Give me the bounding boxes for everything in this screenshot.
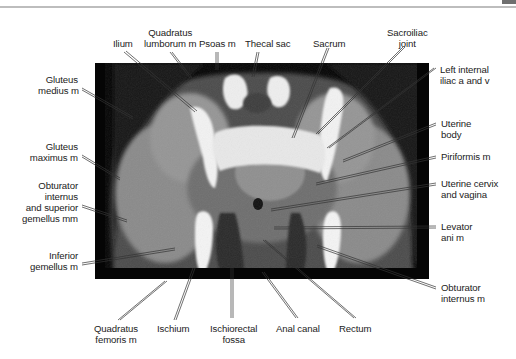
label-quadratus-lumborum: Quadratus lumborum m — [144, 27, 196, 49]
label-psoas: Psoas m — [199, 38, 236, 49]
label-gluteus-maximus: Gluteus maximus m — [28, 141, 78, 163]
label-uterine-cervix-vagina: Uterine cervix and vagina — [441, 178, 498, 200]
label-obturator-internus: Obturator internus m — [441, 282, 485, 304]
label-sacroiliac-joint: Sacroiliac joint — [387, 27, 428, 49]
label-anal-canal: Anal canal — [276, 323, 320, 334]
label-uterine-body: Uterine body — [441, 118, 471, 140]
label-ilium: Ilium — [113, 38, 133, 49]
label-piriformis: Piriformis m — [441, 151, 490, 162]
ct-figure: Ilium Quadratus lumborum m Psoas m Theca… — [0, 0, 516, 359]
label-quadratus-femoris: Quadratus femoris m — [94, 323, 138, 345]
label-thecal-sac: Thecal sac — [245, 38, 290, 49]
label-ischium: Ischium — [157, 323, 189, 334]
label-left-internal-iliac: Left internal iliac a and v — [440, 64, 489, 86]
label-gluteus-medius: Gluteus medius m — [38, 74, 78, 96]
label-obturator-internus-superior-gemellus: Obturator internus and superior gemellus… — [18, 180, 78, 224]
label-sacrum: Sacrum — [313, 38, 345, 49]
label-levator-ani: Levator ani m — [441, 221, 472, 243]
label-inferior-gemellus: Inferior gemellus m — [28, 250, 78, 272]
label-rectum: Rectum — [339, 323, 371, 334]
label-ischiorectal-fossa: Ischiorectal fossa — [210, 323, 257, 345]
